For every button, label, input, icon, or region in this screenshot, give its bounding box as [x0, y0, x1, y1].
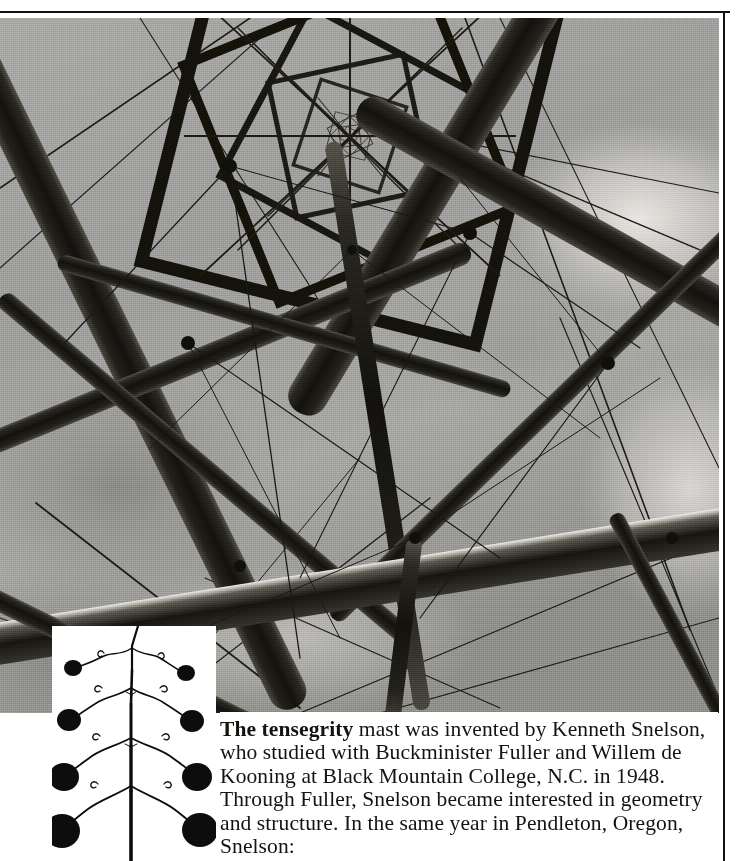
- photograph-artwork: [0, 18, 719, 713]
- tensegrity-caption: The tensegrity mast was invented by Kenn…: [220, 712, 718, 861]
- page-rule-top: [0, 11, 730, 13]
- page-rule-right: [723, 11, 725, 861]
- mobile-sculpture-diagram: [52, 626, 216, 861]
- page-right-margin: [725, 0, 736, 861]
- mobile-weights: [52, 660, 216, 848]
- caption-lead-bold: The tensegrity: [220, 717, 353, 741]
- mobile-diagram-artwork: [52, 626, 216, 861]
- caption-paragraph: The tensegrity mast was invented by Kenn…: [220, 712, 718, 858]
- tensegrity-mast-photograph: [0, 18, 719, 713]
- page-top-margin: [0, 0, 736, 11]
- book-page: The tensegrity mast was invented by Kenn…: [0, 0, 736, 861]
